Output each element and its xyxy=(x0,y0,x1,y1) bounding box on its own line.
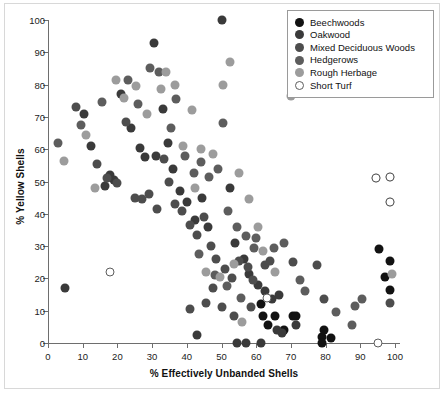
data-point xyxy=(203,222,212,231)
legend-item-oakwood[interactable]: Oakwood xyxy=(295,29,427,42)
data-point xyxy=(371,174,380,183)
data-point xyxy=(222,282,231,291)
data-point xyxy=(259,311,268,320)
data-point xyxy=(231,238,240,247)
data-point xyxy=(123,75,132,84)
data-point xyxy=(201,298,210,307)
data-point xyxy=(319,295,328,304)
data-point xyxy=(288,258,297,267)
data-point xyxy=(201,267,210,276)
data-point xyxy=(252,234,261,243)
data-point xyxy=(142,109,151,118)
scatter-plot-figure: 0102030405060708090100 01020304050607080… xyxy=(0,0,444,395)
data-point xyxy=(385,256,394,265)
data-point xyxy=(262,293,271,302)
legend-item-rough-herbage[interactable]: Rough Herbage xyxy=(295,66,427,79)
x-tick xyxy=(222,343,223,348)
legend-item-hedgerows[interactable]: Hedgerows xyxy=(295,54,427,67)
data-point xyxy=(208,150,217,159)
x-tick xyxy=(187,343,188,348)
y-axis-title: % Yellow Shells xyxy=(15,87,26,287)
data-point xyxy=(207,242,216,251)
data-point xyxy=(217,303,226,312)
legend-item-label: Short Turf xyxy=(310,81,352,91)
data-point xyxy=(292,321,301,330)
data-point xyxy=(54,138,63,147)
data-point xyxy=(149,38,158,47)
legend-marker-icon xyxy=(295,18,304,27)
legend-marker-icon xyxy=(295,30,304,39)
data-point xyxy=(245,195,254,204)
data-point xyxy=(332,308,341,317)
legend-item-label: Oakwood xyxy=(310,30,350,40)
data-point xyxy=(167,124,176,133)
data-point xyxy=(181,151,190,160)
data-point xyxy=(214,164,223,173)
data-point xyxy=(212,255,221,264)
x-tick xyxy=(48,343,49,348)
data-point xyxy=(191,183,200,192)
data-point xyxy=(158,104,167,113)
x-tick-label: 30 xyxy=(147,351,158,362)
x-tick xyxy=(360,343,361,348)
data-point xyxy=(186,221,195,230)
data-point xyxy=(219,119,228,128)
data-point xyxy=(141,153,150,162)
y-tick-label: 50 xyxy=(34,176,45,187)
data-point xyxy=(196,158,205,167)
x-tick-label: 100 xyxy=(387,351,403,362)
data-point xyxy=(188,106,197,115)
x-tick-label: 80 xyxy=(320,351,331,362)
data-point xyxy=(151,151,160,160)
legend-item-label: Beechwoods xyxy=(310,18,364,28)
data-point xyxy=(385,172,394,181)
data-point xyxy=(312,261,321,270)
data-point xyxy=(295,276,304,285)
data-point xyxy=(229,311,238,320)
data-point xyxy=(234,169,243,178)
data-point xyxy=(236,293,245,302)
data-point xyxy=(122,117,131,126)
data-point xyxy=(194,250,203,259)
data-point xyxy=(172,95,181,104)
legend-item-mixed-deciduous-woods[interactable]: Mixed Deciduous Woods xyxy=(295,41,427,54)
data-point xyxy=(71,103,80,112)
data-point xyxy=(92,159,101,168)
x-axis-title: % Effectively Unbanded Shells xyxy=(48,368,400,379)
data-point xyxy=(375,245,384,254)
legend-item-beechwoods[interactable]: Beechwoods xyxy=(295,16,427,29)
data-point xyxy=(278,329,287,338)
x-tick xyxy=(117,343,118,348)
data-point xyxy=(248,276,257,285)
data-point xyxy=(170,80,179,89)
data-point xyxy=(76,120,85,129)
y-tick-label: 20 xyxy=(34,273,45,284)
x-tick xyxy=(83,343,84,348)
legend-item-label: Hedgerows xyxy=(310,55,358,65)
data-point xyxy=(196,145,205,154)
legend-marker-icon xyxy=(295,81,304,90)
legend-item-label: Rough Herbage xyxy=(310,68,377,78)
data-point xyxy=(246,303,255,312)
data-point xyxy=(144,190,153,199)
legend: BeechwoodsOakwoodMixed Deciduous WoodsHe… xyxy=(287,10,434,98)
data-point xyxy=(132,82,141,91)
data-point xyxy=(102,174,111,183)
data-point xyxy=(146,64,155,73)
legend-item-short-turf[interactable]: Short Turf xyxy=(295,79,427,92)
data-point xyxy=(226,183,235,192)
data-point xyxy=(300,287,309,296)
data-point xyxy=(271,311,280,320)
data-point xyxy=(198,193,207,202)
data-point xyxy=(253,222,262,231)
data-point xyxy=(82,130,91,139)
data-point xyxy=(385,198,394,207)
data-point xyxy=(347,321,356,330)
data-point xyxy=(59,156,68,165)
data-point xyxy=(243,263,252,272)
y-axis-line xyxy=(48,20,49,344)
x-axis-line xyxy=(48,343,400,344)
data-point xyxy=(226,57,235,66)
data-point xyxy=(135,143,144,152)
data-point xyxy=(106,267,115,276)
